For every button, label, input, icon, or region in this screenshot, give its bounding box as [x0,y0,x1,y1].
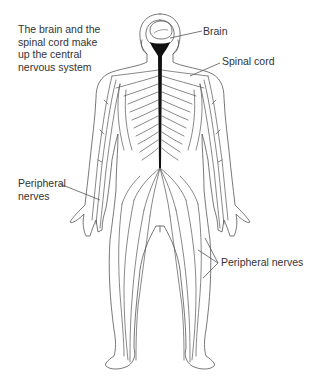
leg-nerves [119,200,202,362]
caption-line-2: spinal cord make [18,36,100,49]
nervous-system-diagram: The brain and the spinal cord make up th… [0,0,320,380]
lumbar-nerves [122,168,198,216]
cns-caption: The brain and the spinal cord make up th… [18,23,100,73]
peripheral-nerves-right-label: Peripheral nerves [221,256,303,269]
peripheral-nerves-left-label: Peripheral nerves [18,177,66,202]
caption-line-4: nervous system [18,61,100,74]
caption-line-1: The brain and the [18,23,100,36]
peripheral-left-line-1: Peripheral [18,177,66,190]
peripheral-left-line-2: nerves [18,190,66,203]
spinal-cord-shape [150,42,170,168]
spinal-cord-label: Spinal cord [222,55,275,68]
caption-line-3: up the central [18,48,100,61]
brain-label: Brain [203,25,228,38]
